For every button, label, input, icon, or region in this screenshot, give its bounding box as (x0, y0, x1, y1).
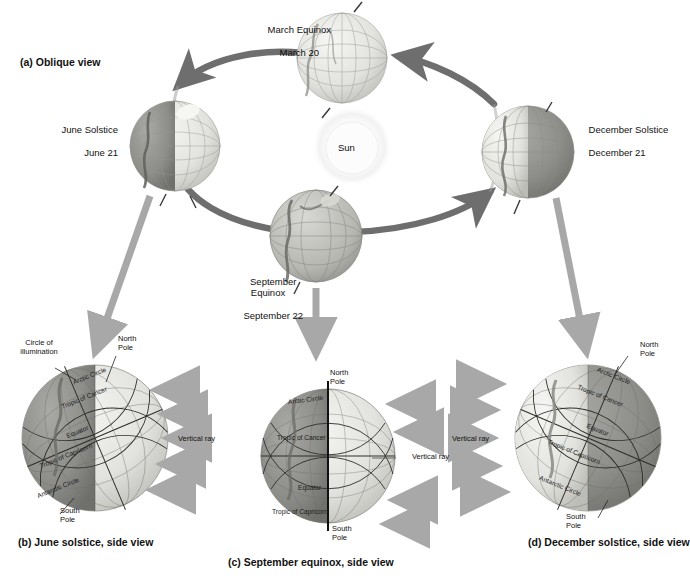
globe-december-solstice (482, 102, 574, 214)
september-north-pole-label: North Pole (330, 368, 348, 386)
panel-b-label: (b) June solstice, side view (18, 536, 153, 548)
september-vertical-ray-label: Vertical ray (412, 452, 449, 461)
june-solstice-title: June Solstice (61, 124, 118, 135)
panel-d-label: (d) December solstice, side view (528, 536, 690, 548)
september-equator-label: Equator (298, 484, 321, 492)
december-south-pole-label: South Pole (566, 512, 586, 530)
connector-june (96, 196, 150, 350)
march-equinox-date: March 20 (279, 47, 319, 58)
orbit-label-september-equinox: September Equinox September 22 (222, 264, 314, 333)
june-circle-of-illumination-label: Circle of illumination (6, 338, 72, 356)
december-solstice-title: December Solstice (589, 124, 669, 135)
globe-june-solstice (130, 101, 220, 208)
march-equinox-title: March Equinox (268, 24, 331, 35)
orbit-label-march-equinox: March Equinox March 20 (234, 12, 354, 70)
september-south-pole-label: South Pole (332, 524, 352, 542)
september-equinox-title: September Equinox (250, 276, 296, 299)
september-tropic-of-cancer-label: Tropic of Cancer (277, 434, 326, 442)
june-north-pole-label: North Pole (118, 334, 136, 352)
sun-label: Sun (338, 142, 355, 154)
september-equinox-date: September 22 (243, 310, 303, 321)
orbit-label-december-solstice: December Solstice December 21 (578, 112, 686, 170)
panel-c-label: (c) September equinox, side view (228, 556, 394, 568)
december-vertical-ray-label: Vertical ray (452, 434, 489, 443)
june-south-pole-label: South Pole (60, 506, 80, 524)
connector-december (556, 198, 586, 350)
panel-a-label: (a) Oblique view (20, 56, 101, 68)
december-north-pole-label: North Pole (640, 340, 658, 358)
december-solstice-date: December 21 (589, 147, 646, 158)
june-solstice-date: June 21 (84, 147, 118, 158)
sunray-arrows-september (390, 404, 440, 524)
september-tropic-of-capricorn-label: Tropic of Capricorn (272, 508, 328, 516)
june-vertical-ray-label: Vertical ray (178, 434, 215, 443)
orbit-label-june-solstice: June Solstice June 21 (20, 112, 118, 170)
